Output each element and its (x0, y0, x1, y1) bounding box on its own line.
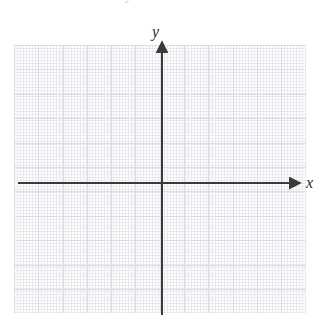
y-axis-label: y (152, 24, 159, 40)
axes-layer (0, 0, 332, 325)
coordinate-plane-figure: n y e y x (0, 0, 332, 325)
x-axis-label: x (306, 175, 313, 191)
